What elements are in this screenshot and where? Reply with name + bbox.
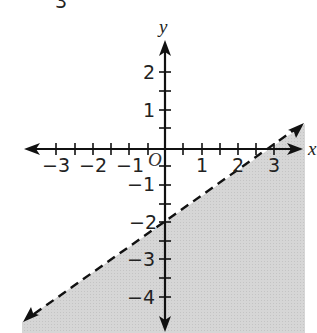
svg-text:1: 1 bbox=[196, 154, 208, 176]
cropped-top-text: 3 bbox=[55, 0, 67, 12]
svg-text:3: 3 bbox=[268, 154, 280, 176]
svg-text:−3: −3 bbox=[127, 248, 155, 270]
svg-text:−4: −4 bbox=[127, 286, 155, 308]
svg-text:1: 1 bbox=[143, 99, 155, 121]
svg-text:−3: −3 bbox=[42, 154, 70, 176]
svg-text:2: 2 bbox=[232, 154, 244, 176]
x-axis-label: x bbox=[307, 138, 317, 159]
svg-text:−2: −2 bbox=[129, 211, 157, 233]
svg-text:−1: −1 bbox=[127, 173, 155, 195]
y-axis-label: y bbox=[157, 16, 168, 37]
inequality-graph: 3 bbox=[0, 0, 317, 333]
origin-label: O bbox=[148, 149, 162, 170]
svg-text:2: 2 bbox=[143, 61, 155, 83]
svg-text:−2: −2 bbox=[79, 154, 107, 176]
